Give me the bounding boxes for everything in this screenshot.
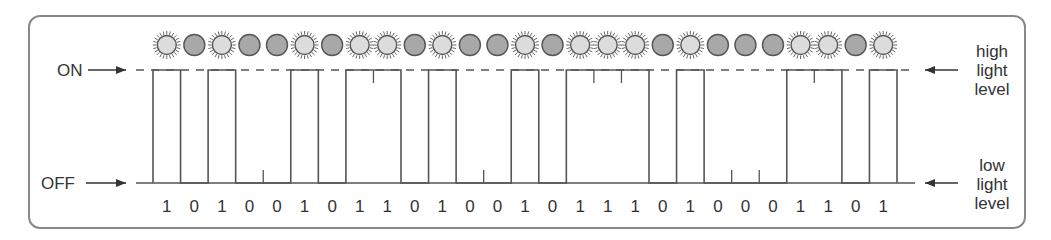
light-ray bbox=[693, 55, 694, 58]
light-ray bbox=[157, 52, 159, 54]
light-ray bbox=[645, 41, 648, 42]
light-ray bbox=[892, 50, 895, 52]
light-ray bbox=[687, 31, 688, 34]
light-ray bbox=[638, 31, 639, 34]
off-arrow-head bbox=[116, 179, 126, 187]
light-ray bbox=[208, 41, 211, 42]
light-ray bbox=[590, 41, 593, 42]
bit-label: 1 bbox=[603, 197, 612, 216]
light-ray bbox=[295, 52, 297, 54]
light-ray bbox=[683, 33, 685, 36]
light-ray bbox=[873, 52, 875, 54]
glowing-bulb-icon bbox=[787, 31, 815, 59]
glowing-bulb-icon bbox=[676, 31, 704, 59]
light-ray bbox=[838, 48, 841, 49]
light-ray bbox=[687, 55, 688, 58]
light-ray bbox=[811, 41, 814, 42]
light-ray bbox=[613, 54, 615, 57]
light-ray bbox=[227, 54, 229, 57]
light-ray bbox=[225, 31, 226, 34]
bulb-body bbox=[626, 36, 645, 55]
light-ray bbox=[567, 48, 570, 49]
low-level-arrow-head bbox=[925, 179, 935, 187]
light-ray bbox=[380, 33, 382, 36]
light-ray bbox=[163, 31, 164, 34]
dark-bulb-icon bbox=[707, 35, 728, 56]
light-ray bbox=[172, 54, 174, 57]
light-ray bbox=[307, 31, 308, 34]
light-ray bbox=[348, 50, 351, 52]
high-level-arrow-head bbox=[925, 66, 935, 74]
light-ray bbox=[615, 35, 617, 37]
light-ray bbox=[787, 48, 790, 49]
light-ray bbox=[585, 54, 587, 57]
light-ray bbox=[315, 48, 318, 49]
light-ray bbox=[210, 50, 213, 52]
bit-label: 0 bbox=[327, 197, 336, 216]
glowing-bulb-icon bbox=[428, 31, 456, 59]
light-ray bbox=[573, 54, 575, 57]
light-ray bbox=[623, 38, 626, 40]
light-ray bbox=[836, 35, 838, 37]
light-ray bbox=[375, 50, 378, 52]
light-ray bbox=[831, 31, 832, 34]
bulb-body bbox=[350, 36, 369, 55]
bulb-body bbox=[212, 36, 231, 55]
light-ray bbox=[622, 41, 625, 42]
light-ray bbox=[640, 54, 642, 57]
light-ray bbox=[677, 48, 680, 49]
light-ray bbox=[678, 50, 681, 52]
light-ray bbox=[314, 50, 317, 52]
light-ray bbox=[610, 31, 611, 34]
light-ray bbox=[604, 31, 605, 34]
light-ray bbox=[315, 41, 318, 42]
light-ray bbox=[528, 55, 529, 58]
light-ray bbox=[292, 50, 295, 52]
light-ray bbox=[601, 33, 603, 36]
light-ray bbox=[521, 55, 522, 58]
light-ray bbox=[585, 33, 587, 36]
bulb-body bbox=[791, 36, 810, 55]
light-ray bbox=[891, 52, 893, 54]
light-ray bbox=[638, 55, 639, 58]
light-ray bbox=[837, 38, 840, 40]
light-ray bbox=[873, 35, 875, 37]
light-ray bbox=[155, 38, 158, 40]
bit-label: 1 bbox=[823, 197, 832, 216]
light-ray bbox=[429, 48, 432, 49]
light-ray bbox=[212, 35, 214, 37]
light-ray bbox=[601, 54, 603, 57]
light-ray bbox=[816, 38, 819, 40]
light-ray bbox=[448, 54, 450, 57]
light-ray bbox=[698, 35, 700, 37]
on-arrow-head bbox=[116, 66, 126, 74]
light-ray bbox=[788, 50, 791, 52]
light-ray bbox=[880, 31, 881, 34]
light-ray bbox=[432, 52, 434, 54]
bit-label: 0 bbox=[658, 197, 667, 216]
light-ray bbox=[163, 55, 164, 58]
light-ray bbox=[298, 33, 300, 36]
light-ray bbox=[683, 54, 685, 57]
light-ray bbox=[623, 50, 626, 52]
light-ray bbox=[397, 48, 400, 49]
light-ray bbox=[153, 41, 156, 42]
light-ray bbox=[598, 35, 600, 37]
light-ray bbox=[871, 38, 874, 40]
bit-label: 1 bbox=[162, 197, 171, 216]
light-ray bbox=[568, 38, 571, 40]
light-ray bbox=[567, 41, 570, 42]
light-ray bbox=[212, 52, 214, 54]
light-ray bbox=[811, 48, 814, 49]
light-ray bbox=[176, 38, 179, 40]
bit-label: 1 bbox=[382, 197, 391, 216]
light-ray bbox=[700, 48, 703, 49]
light-ray bbox=[618, 41, 621, 42]
light-ray bbox=[448, 33, 450, 36]
light-ray bbox=[312, 35, 314, 37]
light-ray bbox=[450, 35, 452, 37]
light-ray bbox=[450, 52, 452, 54]
light-ray bbox=[680, 52, 682, 54]
light-ray bbox=[530, 54, 532, 57]
light-ray bbox=[353, 33, 355, 36]
